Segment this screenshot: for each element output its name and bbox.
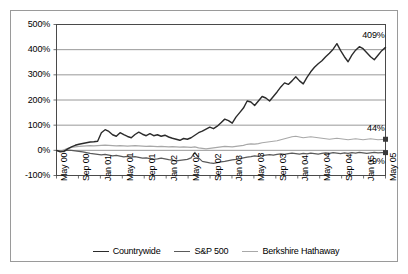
legend-line-swatch-icon <box>242 251 258 252</box>
x-axis-tick-label: May 01 <box>126 152 135 180</box>
chart-plot-area <box>0 0 408 274</box>
x-axis-tick-label: May 03 <box>257 152 266 180</box>
y-axis-tick-label: 300% <box>8 70 50 79</box>
y-axis-tick-label: 100% <box>8 121 50 130</box>
y-axis-tick-label: 400% <box>8 45 50 54</box>
x-axis-tick-label: Sep 01 <box>148 153 157 180</box>
legend-label: Berkshire Hathaway <box>262 247 339 256</box>
y-axis-tick-label: -100% <box>8 171 50 180</box>
legend-line-swatch-icon <box>174 251 190 252</box>
legend-item-berkshire-hathaway[interactable]: Berkshire Hathaway <box>242 247 339 256</box>
y-axis-tick-label: 0% <box>8 146 50 155</box>
y-axis-tick-label: 500% <box>8 20 50 29</box>
x-axis-tick-label: May 05 <box>389 152 398 180</box>
x-axis-tick-label: Sep 00 <box>82 153 91 180</box>
series-end-value-label: 409% <box>353 31 385 40</box>
legend-line-swatch-icon <box>93 251 109 252</box>
x-axis-tick-label: May 02 <box>192 152 201 180</box>
legend-label: Countrywide <box>113 247 161 256</box>
series-end-marker <box>383 137 388 142</box>
series-end-value-label: -9% <box>353 157 385 166</box>
chart-figure: -100%0%100%200%300%400%500% May 00Sep 00… <box>0 0 408 274</box>
series-line-countrywide <box>57 44 386 152</box>
legend-item-countrywide[interactable]: Countrywide <box>93 247 161 256</box>
legend-item-s-p-500[interactable]: S&P 500 <box>174 247 228 256</box>
x-axis-tick-label: Jan 02 <box>170 155 179 181</box>
series-end-value-label: 44% <box>353 124 385 133</box>
series-line-berkshire-hathaway <box>57 136 386 151</box>
x-axis-tick-label: Jan 01 <box>104 155 113 181</box>
x-axis-tick-label: May 04 <box>323 152 332 180</box>
x-axis-tick-label: Jan 03 <box>235 155 244 181</box>
legend-label: S&P 500 <box>194 247 228 256</box>
x-axis-tick-label: Sep 03 <box>279 153 288 180</box>
x-axis-tick-label: Jan 04 <box>301 155 310 181</box>
x-axis-tick-label: Sep 02 <box>214 153 223 180</box>
chart-legend: CountrywideS&P 500Berkshire Hathaway <box>56 244 376 258</box>
x-axis-tick-label: May 00 <box>60 152 69 180</box>
y-axis-tick-label: 200% <box>8 96 50 105</box>
